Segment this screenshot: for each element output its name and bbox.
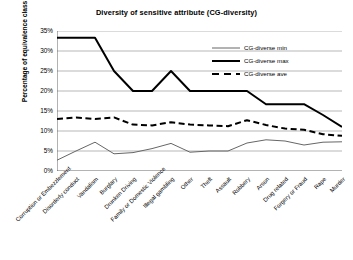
y-tick-label: 0%	[27, 167, 53, 174]
legend-item: CG-diverse ave	[212, 67, 332, 80]
legend-label: CG-diverse max	[244, 57, 289, 64]
chart-title: Diversity of sensitive attribute (CG-div…	[0, 8, 353, 17]
legend-item: CG-diverse min	[212, 41, 332, 54]
chart-container: Diversity of sensitive attribute (CG-div…	[0, 0, 353, 260]
legend-swatch-icon	[212, 57, 240, 65]
y-tick-label: 5%	[27, 147, 53, 154]
y-tick-label: 35%	[27, 27, 53, 34]
legend-swatch-icon	[212, 70, 240, 78]
y-tick-label: 15%	[27, 107, 53, 114]
y-tick-label: 30%	[27, 47, 53, 54]
chart-legend: CG-diverse minCG-diverse maxCG-diverse a…	[212, 41, 332, 80]
y-tick-label: 10%	[27, 127, 53, 134]
series-line-2	[57, 117, 342, 135]
series-line-0	[57, 140, 342, 160]
y-axis-title: Percentage of equivalence class	[21, 0, 28, 122]
legend-item: CG-diverse max	[212, 54, 332, 67]
y-tick-label: 25%	[27, 67, 53, 74]
legend-label: CG-diverse min	[244, 44, 287, 51]
y-tick-label: 20%	[27, 87, 53, 94]
legend-label: CG-diverse ave	[244, 70, 287, 77]
legend-swatch-icon	[212, 44, 240, 52]
